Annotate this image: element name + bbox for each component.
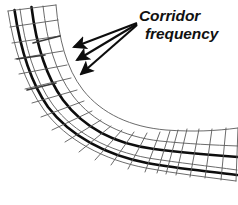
corridor-frequency-label-line-1: Corridor	[139, 7, 200, 24]
figure-root: Corridor frequency	[0, 0, 238, 205]
corridor-frequency-label-line-2: frequency	[145, 25, 218, 42]
